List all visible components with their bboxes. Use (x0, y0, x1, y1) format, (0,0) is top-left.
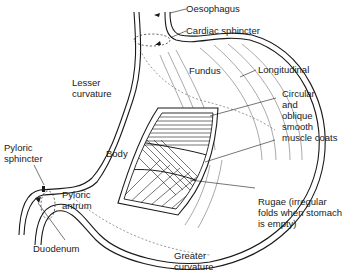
label-duodenum: Duodenum (33, 243, 79, 254)
label-pyloric-antrum: Pyloric antrum (62, 189, 92, 211)
label-greater-curvature: Greater curvature (174, 250, 214, 272)
cutaway-window (118, 108, 230, 215)
label-circular-oblique-muscle: Circular and oblique smooth muscle coats (282, 88, 337, 143)
pyloric-sphincter-marker (42, 186, 45, 192)
label-rugae: Rugae (irregular folds when stomach is e… (258, 196, 342, 229)
label-longitudinal: Longitudinal (258, 64, 309, 75)
label-cardiac-sphincter: Cardiac sphincter (186, 25, 260, 36)
label-oesophagus: Oesophagus (186, 3, 240, 14)
cardiac-sphincter-ring (134, 34, 170, 46)
label-pyloric-sphincter: Pyloric sphincter (4, 142, 43, 164)
label-lesser-curvature: Lesser curvature (72, 77, 112, 99)
label-body: Body (106, 148, 128, 159)
label-fundus: Fundus (189, 65, 221, 76)
